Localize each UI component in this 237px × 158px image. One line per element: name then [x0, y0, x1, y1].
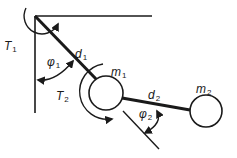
mass-m2-circle	[190, 95, 222, 127]
label-t1: T1	[4, 40, 17, 54]
label-m1: m1	[111, 66, 126, 80]
label-t2-sub: 2	[64, 95, 68, 104]
label-d2-sub: 2	[156, 94, 160, 103]
label-m1-base: m	[111, 65, 121, 79]
label-t1-base: T	[4, 39, 11, 53]
label-d1-base: d	[75, 47, 82, 61]
double-pendulum-diagram: T1 d1 φ1 m1 T2 d2 φ2 m2	[0, 0, 237, 158]
label-d2-base: d	[148, 88, 155, 102]
label-phi1-base: φ	[47, 55, 55, 69]
label-t1-sub: 1	[12, 45, 16, 54]
label-d1: d1	[75, 48, 87, 62]
mass-m1-circle	[89, 76, 123, 110]
label-m2-base: m	[196, 82, 206, 96]
label-m1-sub: 1	[122, 71, 126, 80]
label-t2: T2	[56, 90, 69, 104]
label-d2: d2	[148, 89, 160, 103]
label-phi2-sub: 2	[148, 113, 152, 122]
label-m2-sub: 2	[207, 88, 211, 97]
rod-d1	[35, 16, 97, 80]
label-phi2: φ2	[139, 108, 152, 122]
label-t2-base: T	[56, 89, 63, 103]
label-phi1: φ1	[47, 56, 60, 70]
label-m2: m2	[196, 83, 211, 97]
label-d1-sub: 1	[83, 53, 87, 62]
label-phi1-sub: 1	[56, 61, 60, 70]
label-phi2-base: φ	[139, 107, 147, 121]
